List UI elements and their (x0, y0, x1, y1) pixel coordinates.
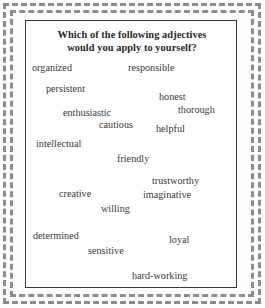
adjective-option[interactable]: persistent (46, 83, 85, 94)
adjective-option[interactable]: hard-working (132, 270, 187, 281)
adjective-option[interactable]: sensitive (88, 245, 124, 256)
adjective-option[interactable]: loyal (169, 234, 189, 245)
adjective-option[interactable]: enthusiastic (63, 107, 111, 118)
adjective-option[interactable]: helpful (156, 123, 185, 134)
adjective-option[interactable]: honest (159, 91, 186, 102)
adjective-option[interactable]: determined (33, 230, 79, 241)
adjective-option[interactable]: imaginative (143, 189, 191, 200)
question-card: Which of the following adjectives would … (25, 20, 237, 288)
adjective-option[interactable]: responsible (128, 62, 174, 73)
adjective-option[interactable]: intellectual (36, 138, 81, 149)
adjective-option[interactable]: thorough (178, 104, 215, 115)
adjective-option[interactable]: creative (59, 188, 91, 199)
question-title-line-2: would you apply to yourself? (26, 41, 237, 54)
adjective-option[interactable]: trustworthy (152, 175, 199, 186)
question-title: Which of the following adjectives would … (26, 28, 237, 54)
worksheet-page: Which of the following adjectives would … (0, 0, 265, 308)
adjective-option[interactable]: willing (101, 203, 130, 214)
adjective-option[interactable]: cautious (99, 119, 133, 130)
question-title-line-1: Which of the following adjectives (26, 28, 237, 41)
adjective-option[interactable]: organized (32, 62, 72, 73)
adjective-option[interactable]: friendly (117, 153, 149, 164)
